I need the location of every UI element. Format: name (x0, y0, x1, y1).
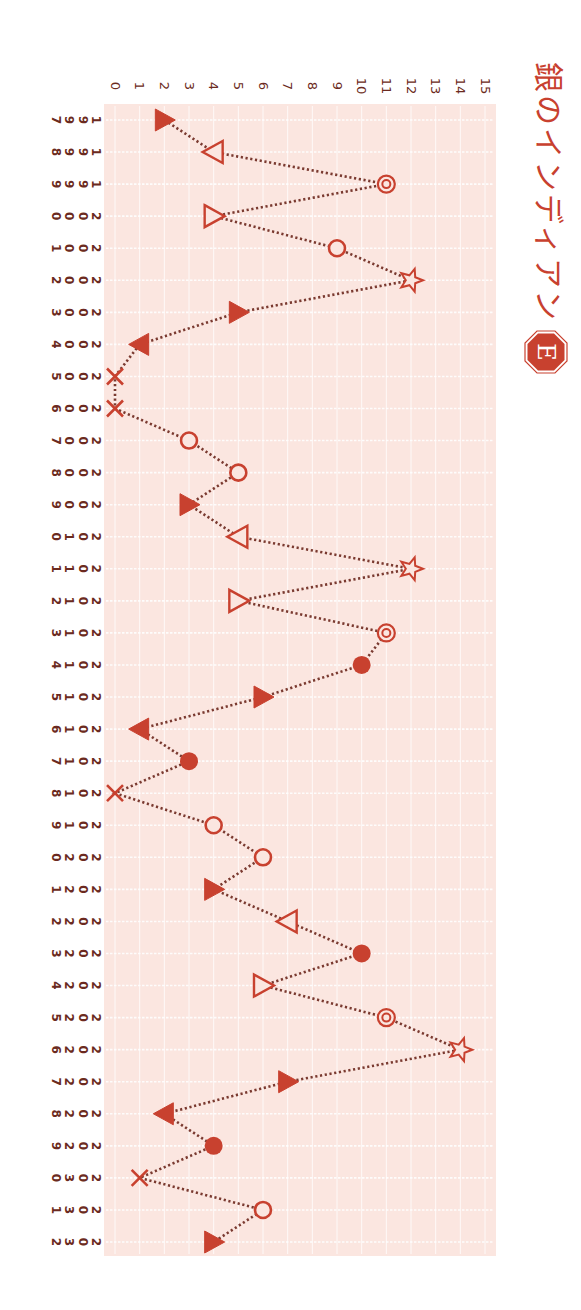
svg-text:9: 9 (49, 180, 63, 188)
year-tick-label: 2003 (49, 308, 104, 316)
svg-text:2: 2 (62, 1045, 76, 1053)
svg-text:0: 0 (62, 340, 76, 348)
svg-text:0: 0 (76, 276, 90, 284)
year-tick-label: 2022 (49, 917, 104, 925)
value-tick-label: 10 (354, 78, 369, 95)
marker-circle-filled (353, 944, 371, 962)
svg-text:2: 2 (89, 244, 103, 252)
svg-text:0: 0 (76, 1142, 90, 1150)
svg-text:2: 2 (49, 917, 63, 925)
svg-text:2: 2 (89, 1078, 103, 1086)
svg-text:3: 3 (49, 308, 63, 316)
svg-text:2: 2 (89, 212, 103, 220)
svg-text:0: 0 (76, 949, 90, 957)
marker-circle-open (255, 849, 271, 865)
value-tick-label: 13 (428, 78, 443, 95)
svg-text:2: 2 (89, 789, 103, 797)
svg-text:2: 2 (49, 597, 63, 605)
year-tick-label: 2024 (49, 981, 104, 989)
svg-text:8: 8 (49, 148, 63, 156)
year-tick-label: 2028 (49, 1110, 104, 1118)
svg-text:5: 5 (49, 372, 63, 380)
year-tick-label: 2029 (49, 1142, 104, 1150)
svg-text:1: 1 (62, 789, 76, 797)
year-tick-label: 2001 (49, 244, 104, 252)
year-tick-label: 2000 (49, 212, 104, 220)
year-tick-label: 2004 (49, 340, 104, 348)
svg-text:2: 2 (62, 949, 76, 957)
marker-circle-filled (180, 752, 198, 770)
svg-text:1: 1 (62, 821, 76, 829)
value-tick-label: 9 (330, 82, 345, 90)
value-tick-label: 8 (305, 82, 320, 90)
svg-text:0: 0 (62, 308, 76, 316)
svg-text:2: 2 (89, 1110, 103, 1118)
year-tick-label: 2030 (49, 1174, 104, 1182)
svg-text:1: 1 (62, 693, 76, 701)
year-tick-label: 2006 (49, 404, 104, 412)
svg-text:7: 7 (49, 116, 63, 124)
svg-text:0: 0 (76, 789, 90, 797)
svg-text:0: 0 (76, 853, 90, 861)
year-tick-label: 2032 (49, 1238, 104, 1246)
svg-text:2: 2 (89, 725, 103, 733)
year-tick-label: 2002 (49, 276, 104, 284)
svg-text:0: 0 (62, 276, 76, 284)
value-tick-label: 12 (404, 78, 419, 95)
svg-text:2: 2 (89, 1142, 103, 1150)
svg-text:5: 5 (49, 1013, 63, 1021)
year-tick-label: 2005 (49, 372, 104, 380)
svg-text:1: 1 (62, 725, 76, 733)
svg-text:1: 1 (49, 1206, 63, 1214)
value-tick-label: 1 (132, 82, 147, 90)
svg-text:6: 6 (49, 404, 63, 412)
svg-text:2: 2 (89, 468, 103, 476)
svg-text:0: 0 (49, 1174, 63, 1182)
marker-circle-open (181, 433, 197, 449)
svg-text:2: 2 (89, 1045, 103, 1053)
svg-text:6: 6 (49, 1045, 63, 1053)
marker-circle-filled (353, 656, 371, 674)
svg-text:2: 2 (89, 1174, 103, 1182)
svg-text:2: 2 (89, 853, 103, 861)
value-tick-label: 2 (157, 82, 172, 90)
plot-area (104, 104, 496, 1256)
svg-text:4: 4 (49, 340, 63, 348)
year-tick-label: 2031 (49, 1206, 104, 1214)
svg-text:3: 3 (62, 1206, 76, 1214)
year-tick-label: 2007 (49, 436, 104, 444)
svg-text:2: 2 (89, 981, 103, 989)
svg-text:8: 8 (49, 789, 63, 797)
svg-text:2: 2 (62, 1110, 76, 1118)
svg-text:1: 1 (89, 116, 103, 124)
year-tick-label: 2008 (49, 468, 104, 476)
svg-text:0: 0 (62, 212, 76, 220)
marker-circle-open (206, 817, 222, 833)
value-tick-label: 6 (256, 82, 271, 90)
value-tick-label: 3 (182, 82, 197, 90)
svg-text:2: 2 (62, 1142, 76, 1150)
svg-text:9: 9 (76, 180, 90, 188)
svg-text:0: 0 (76, 212, 90, 220)
svg-text:0: 0 (76, 565, 90, 573)
year-tick-label: 2017 (49, 757, 104, 765)
svg-text:2: 2 (89, 693, 103, 701)
svg-text:2: 2 (49, 276, 63, 284)
svg-text:2: 2 (89, 597, 103, 605)
svg-text:8: 8 (49, 468, 63, 476)
svg-text:4: 4 (49, 981, 63, 989)
svg-text:9: 9 (76, 148, 90, 156)
svg-text:3: 3 (49, 629, 63, 637)
svg-text:2: 2 (89, 372, 103, 380)
year-tick-label: 2027 (49, 1078, 104, 1086)
year-tick-label: 2023 (49, 949, 104, 957)
year-tick-label: 2018 (49, 789, 104, 797)
svg-text:0: 0 (76, 917, 90, 925)
value-tick-label: 7 (280, 82, 295, 90)
svg-text:2: 2 (89, 436, 103, 444)
svg-text:2: 2 (62, 853, 76, 861)
svg-text:9: 9 (62, 148, 76, 156)
svg-text:0: 0 (62, 404, 76, 412)
svg-text:0: 0 (76, 340, 90, 348)
svg-text:0: 0 (76, 981, 90, 989)
